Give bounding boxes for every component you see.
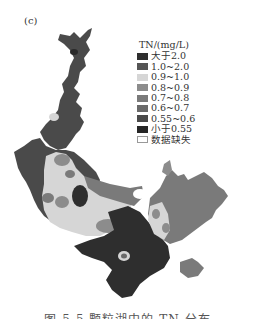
lake-tn-map: [0, 0, 255, 300]
legend-swatch: [137, 95, 148, 102]
north-arm-region: [40, 28, 92, 150]
legend-swatch: [137, 74, 148, 81]
legend-swatch: [137, 63, 148, 70]
legend-swatch: [137, 84, 148, 91]
legend-swatch: [137, 53, 148, 60]
legend-swatch: [137, 136, 148, 143]
legend-swatch: [137, 105, 148, 112]
legend-swatch: [137, 126, 148, 133]
legend-item: 小于0.55: [137, 124, 195, 134]
figure-caption: 图 5-5 颗粒湖中的 TN 分布: [0, 306, 255, 319]
legend-item: 数据缺失: [137, 135, 195, 145]
legend-swatch: [137, 115, 148, 122]
legend: TN/(mg/L) 大于2.0 1.0~2.0 0.9~1.0 0.8~0.9 …: [137, 40, 195, 145]
legend-title: TN/(mg/L): [139, 40, 195, 50]
